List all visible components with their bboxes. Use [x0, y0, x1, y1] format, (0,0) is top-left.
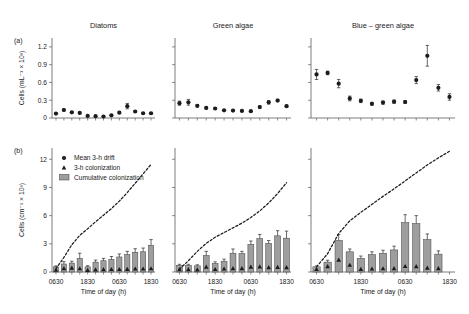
drift-data-point	[359, 99, 363, 103]
y-tick-label: 3	[43, 240, 47, 247]
drift-data-point	[447, 95, 451, 99]
legend-label-colonization: 3-h colonization	[74, 164, 121, 171]
drift-data-point	[109, 113, 113, 117]
drift-data-point	[436, 86, 440, 90]
drift-data-point	[78, 111, 82, 115]
x-tick-label: 1830	[442, 278, 457, 285]
y-tick-label: 6	[43, 212, 47, 219]
drift-data-point	[125, 104, 129, 108]
drift-data-point	[213, 106, 217, 110]
x-tick-label: 0630	[49, 278, 64, 285]
y-tick-label: 12	[40, 156, 48, 163]
x-tick-label: 0630	[112, 278, 127, 285]
legend: Mean 3-h drift3-h colonizationCumulative…	[60, 154, 144, 180]
drift-data-point	[249, 109, 253, 113]
drift-data-point	[149, 111, 153, 115]
bar-swatch-icon	[60, 174, 70, 180]
drift-data-point	[177, 101, 181, 105]
panel-title-2: Blue – green algae	[352, 21, 414, 30]
drift-data-point	[117, 111, 121, 115]
drift-data-point	[222, 108, 226, 112]
x-axis-label-2: Time of day (h)	[360, 288, 405, 296]
x-tick-label: 0630	[398, 278, 413, 285]
drift-data-point	[276, 98, 280, 102]
x-tick-label: 1830	[144, 278, 159, 285]
y-tick-label: 1.2	[38, 43, 47, 50]
drift-data-point	[62, 108, 66, 112]
x-tick-label: 1830	[80, 278, 95, 285]
panel-b-2: 0630183006301830Time of day (h)	[308, 148, 457, 296]
drift-data-point	[381, 100, 385, 104]
panel-title-1: Green algae	[213, 21, 254, 30]
x-axis-label-1: Time of day (h)	[210, 288, 255, 296]
figure-canvas: (a)(b)Cells (mL⁻¹ × 10³)Cells (cm⁻² × 10…	[0, 0, 469, 314]
circle-marker-icon	[62, 156, 66, 160]
drift-data-point	[403, 100, 407, 104]
cumulative-bar	[203, 256, 209, 272]
drift-data-point	[195, 104, 199, 108]
y-tick-label: 0	[43, 114, 47, 121]
drift-data-point	[314, 72, 318, 76]
figure-root: (a)(b)Cells (mL⁻¹ × 10³)Cells (cm⁻² × 10…	[14, 37, 26, 237]
cumulative-bar	[335, 241, 342, 272]
drift-data-point	[337, 82, 341, 86]
x-tick-label: 0630	[244, 278, 259, 285]
drift-data-point	[133, 109, 137, 113]
x-tick-label: 1830	[279, 278, 294, 285]
drift-data-point	[392, 100, 396, 104]
y-tick-label: 0	[43, 268, 47, 275]
cumulative-bar	[346, 252, 353, 272]
y-tick-label: 9	[43, 184, 47, 191]
y-tick-label: 0.3	[38, 97, 47, 104]
panel-b-1: 0630183006301830Time of day (h)	[172, 148, 294, 296]
panel-title-0: Diatoms	[90, 21, 117, 30]
panel-a-label: (a)	[14, 37, 23, 45]
drift-data-point	[267, 100, 271, 104]
drift-data-point	[204, 106, 208, 110]
x-axis-label-0: Time of day (h)	[81, 288, 126, 296]
drift-data-point	[425, 54, 429, 58]
drift-data-point	[93, 114, 97, 118]
panel-a-2: Blue – green algae	[308, 21, 455, 121]
drift-data-point	[70, 110, 74, 114]
y-axis-label-a: Cells (mL⁻¹ × 10³)	[18, 51, 26, 105]
y-axis-label-b: Cells (cm⁻² × 10³)	[18, 183, 26, 237]
legend-label-cumulative: Cumulative colonization	[74, 174, 144, 181]
drift-data-point	[54, 111, 58, 115]
drift-data-point	[284, 104, 288, 108]
drift-data-point	[348, 96, 352, 100]
drift-data-point	[370, 102, 374, 106]
drift-data-point	[101, 114, 105, 118]
drift-data-point	[414, 78, 418, 82]
drift-data-point	[326, 71, 330, 75]
x-tick-label: 0630	[309, 278, 324, 285]
panel-a-1: Green algae	[172, 21, 291, 121]
drift-data-point	[258, 105, 262, 109]
legend-label-drift: Mean 3-h drift	[74, 154, 115, 161]
drift-data-point	[231, 108, 235, 112]
x-tick-label: 1830	[354, 278, 369, 285]
drift-data-point	[86, 114, 90, 118]
x-tick-label: 1830	[208, 278, 223, 285]
y-tick-label: 0.6	[38, 79, 47, 86]
figure-container: (a)(b)Cells (mL⁻¹ × 10³)Cells (cm⁻² × 10…	[0, 0, 469, 314]
panel-a-0: Diatoms00.30.60.91.2	[38, 21, 155, 121]
drift-data-point	[186, 100, 190, 104]
x-tick-label: 0630	[172, 278, 187, 285]
drift-data-point	[141, 111, 145, 115]
drift-data-point	[240, 109, 244, 113]
y-tick-label: 0.9	[38, 61, 47, 68]
triangle-marker-icon	[62, 165, 67, 169]
panel-b-label: (b)	[14, 147, 23, 155]
